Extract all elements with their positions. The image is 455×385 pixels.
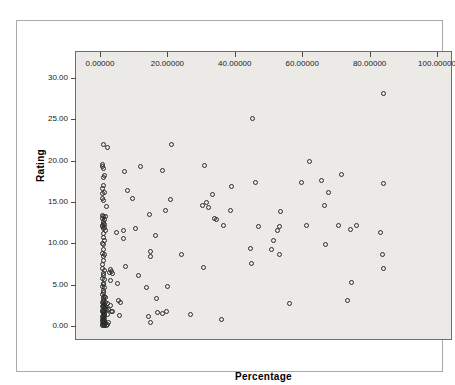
data-point [206,205,211,210]
data-point [256,224,261,229]
data-point [160,168,165,173]
y-tick-mark [71,285,76,286]
data-point [138,164,143,169]
data-point [319,178,324,183]
y-tick-mark [71,119,76,120]
data-point [163,208,168,213]
x-tick-mark [302,52,303,57]
data-point [349,280,354,285]
data-point [354,223,359,228]
data-point [117,313,122,318]
data-point [130,196,135,201]
data-point [108,278,113,283]
data-point [299,180,304,185]
data-point [125,188,130,193]
x-axis-title: Percentage [75,371,452,382]
data-point [219,317,224,322]
data-point [378,230,383,235]
data-point [147,212,152,217]
data-point [121,228,126,233]
data-point [165,284,170,289]
data-point [121,236,126,241]
data-point [105,145,110,150]
x-tick-label: 80.00000 [353,60,386,68]
data-point [271,238,276,243]
data-point [179,252,184,257]
data-point [100,309,105,314]
data-point [380,252,385,257]
data-point [104,204,109,209]
data-point [164,309,169,314]
data-point [101,166,106,171]
y-tick-mark [71,161,76,162]
data-point [101,175,106,180]
data-point [168,197,173,202]
data-point [326,190,331,195]
data-point [348,227,353,232]
data-point [153,233,158,238]
data-point [133,226,138,231]
y-tick-label: 15.00 [48,198,68,206]
data-point [148,249,153,254]
data-points-layer [76,52,451,339]
y-axis-title: Rating [33,21,47,310]
data-point [101,198,106,203]
data-point [323,242,328,247]
data-point [154,296,159,301]
data-point [248,246,253,251]
data-point [188,312,193,317]
data-point [229,184,234,189]
x-tick-mark [437,52,438,57]
y-tick-mark [71,78,76,79]
data-point [214,217,219,222]
data-point [101,226,106,231]
data-point [118,300,123,305]
y-tick-label: 25.00 [48,115,68,123]
x-tick-label: 0.00000 [86,60,115,68]
data-point [200,203,205,208]
x-tick-mark [235,52,236,57]
x-tick-label: 20.00000 [151,60,184,68]
x-tick-mark [100,52,101,57]
y-tick-mark [71,326,76,327]
data-point [210,192,215,197]
y-tick-label: 10.00 [48,239,68,247]
data-point [221,223,226,228]
data-point [307,159,312,164]
data-point [304,223,309,228]
y-tick-label: 5.00 [52,281,68,289]
y-tick-mark [71,202,76,203]
x-tick-label: 60.00000 [286,60,319,68]
data-point [202,163,207,168]
data-point [169,142,174,147]
data-point [278,209,283,214]
data-point [155,310,160,315]
data-point [114,230,119,235]
y-axis-title-label: Rating [35,149,46,182]
y-tick-mark [71,243,76,244]
data-point [322,203,327,208]
data-point [146,314,151,319]
data-point [123,264,128,269]
data-point [275,228,280,233]
data-point [381,181,386,186]
data-point [228,208,233,213]
y-tick-label: 0.00 [52,322,68,330]
chart-frame: Rating Percentage 0.005.0010.0015.0020.0… [16,20,443,372]
data-point [103,295,108,300]
data-point [201,265,206,270]
x-tick-label: 40.00000 [218,60,251,68]
data-point [122,169,127,174]
data-point [287,301,292,306]
data-point [102,217,107,222]
x-axis-title-label: Percentage [235,371,292,382]
data-point [336,223,341,228]
x-tick-label: 100.00000 [418,60,455,68]
plot-area: 0.005.0010.0015.0020.0025.0030.00 0.0000… [75,51,452,340]
x-tick-mark [167,52,168,57]
y-tick-label: 20.00 [48,157,68,165]
data-point [381,91,386,96]
x-tick-mark [370,52,371,57]
scatter-plot-screenshot: Rating Percentage 0.005.0010.0015.0020.0… [0,0,455,385]
data-point [110,309,115,314]
